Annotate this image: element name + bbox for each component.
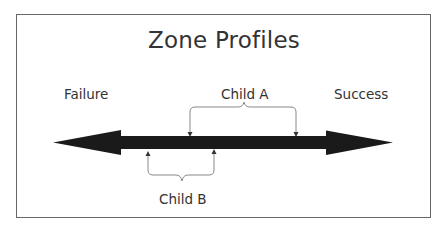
child-a-brace	[190, 102, 296, 134]
child-b-left-pointer-icon	[146, 151, 151, 156]
diagram-canvas	[0, 0, 448, 228]
left-arrowhead-icon	[53, 130, 121, 155]
right-arrowhead-icon	[326, 131, 393, 156]
child-b-brace	[148, 152, 214, 181]
axis-shaft	[118, 136, 330, 149]
failure-success-axis-arrow	[53, 130, 393, 155]
child-a-brace-path	[190, 102, 296, 134]
child-b-brace-path	[148, 152, 214, 181]
child-b-right-pointer-icon	[212, 149, 217, 154]
